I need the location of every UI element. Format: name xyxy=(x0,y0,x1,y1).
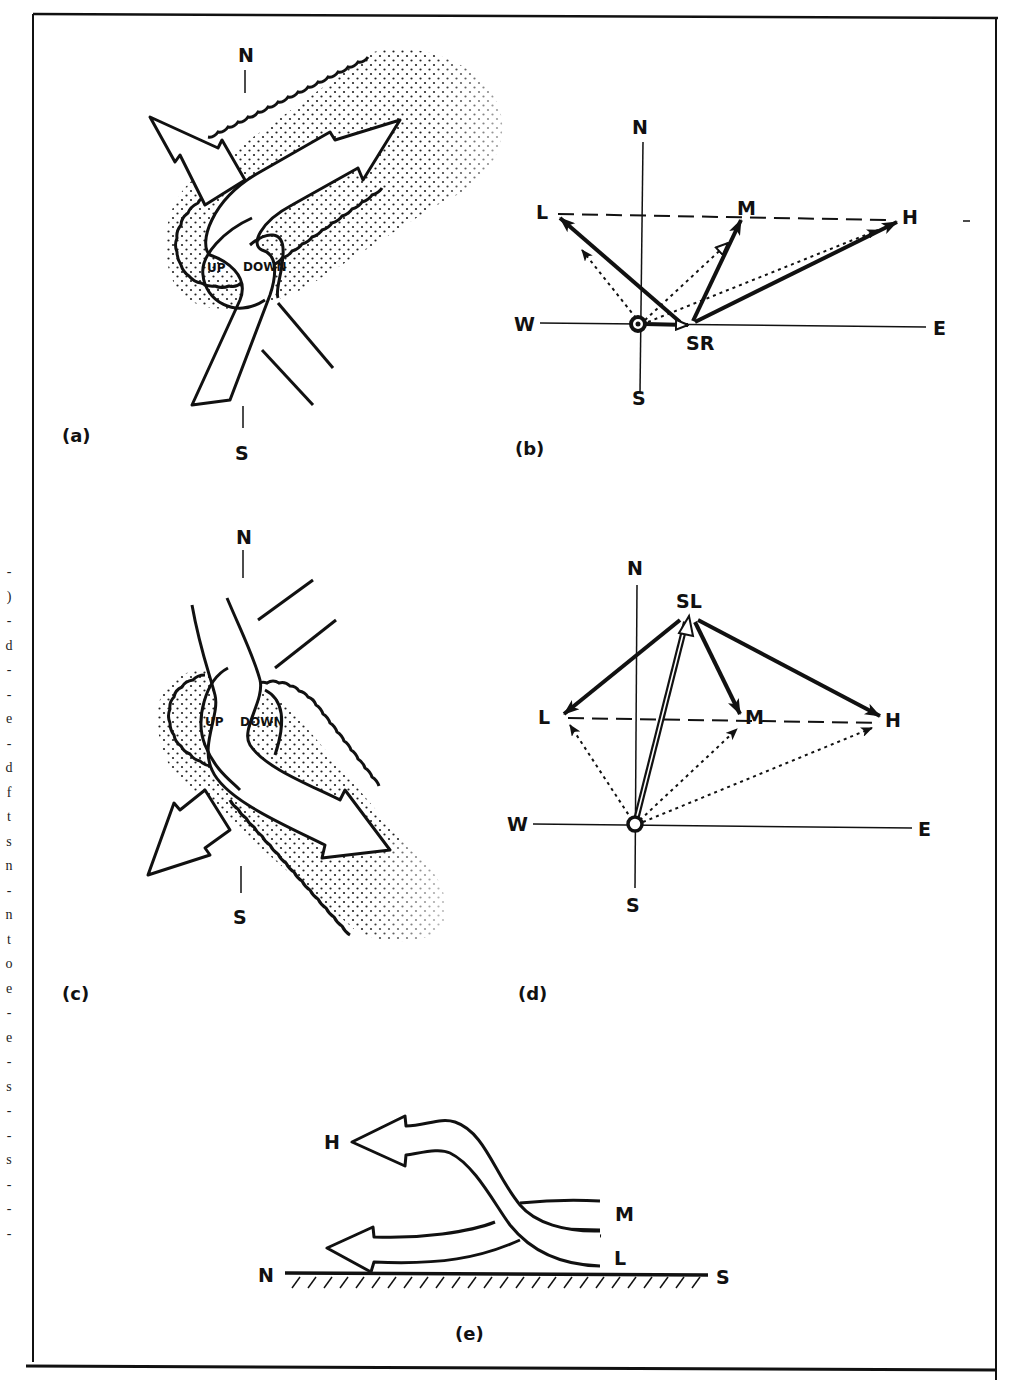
low-level-flow-arrow xyxy=(327,1222,520,1272)
panel-b-hodograph-right-mover: N S W E L M H SR (b) xyxy=(514,116,970,459)
south-label: S xyxy=(716,1266,730,1288)
storm-motion-vector xyxy=(645,324,688,325)
south-label: S xyxy=(235,442,249,464)
hodograph-dashed-line xyxy=(558,214,890,220)
updraft-label: UP xyxy=(207,261,226,275)
east-label: E xyxy=(933,317,946,339)
panel-label-d: (d) xyxy=(518,983,547,1004)
ground-hatching xyxy=(292,1277,700,1288)
north-label: N xyxy=(258,1264,274,1286)
west-label: W xyxy=(507,813,528,835)
ground-line xyxy=(285,1273,708,1275)
panel-d-hodograph-left-mover: N S W E L M H SL (d) xyxy=(507,557,931,1004)
south-label: S xyxy=(632,387,646,409)
point-H: H xyxy=(885,709,901,731)
panel-label-e: (e) xyxy=(455,1323,484,1344)
panel-c-storm-plan-view: UP DOWN N S (c) xyxy=(62,526,450,1004)
level-M-label: M xyxy=(615,1203,634,1225)
panel-label-a: (a) xyxy=(62,425,91,446)
point-H: H xyxy=(902,206,918,228)
hodograph-dashed-line xyxy=(568,718,880,723)
south-label: S xyxy=(233,906,247,928)
north-label: N xyxy=(236,526,252,548)
panel-label-c: (c) xyxy=(62,983,89,1004)
panel-label-b: (b) xyxy=(515,438,544,459)
updraft-label: UP xyxy=(205,715,224,729)
figure-canvas: UP DOWN N S (a) N S W E L M H SR (b) xyxy=(0,0,1017,1382)
axis-ns xyxy=(640,142,643,392)
point-SR: SR xyxy=(686,332,715,354)
south-label: S xyxy=(626,894,640,916)
point-L: L xyxy=(536,201,548,223)
downdraft-label: DOWN xyxy=(240,715,283,729)
point-M: M xyxy=(745,706,764,728)
point-M: M xyxy=(737,197,756,219)
level-L-label: L xyxy=(614,1247,626,1269)
panel-a-storm-plan-view: UP DOWN N S (a) xyxy=(62,40,520,464)
point-L: L xyxy=(538,706,550,728)
north-label: N xyxy=(627,557,643,579)
origin-marker xyxy=(628,817,642,831)
downdraft-label: DOWN xyxy=(243,260,286,274)
west-label: W xyxy=(514,313,535,335)
axis-ns xyxy=(635,585,637,888)
east-label: E xyxy=(918,818,931,840)
point-SL: SL xyxy=(676,590,702,612)
north-label: N xyxy=(632,116,648,138)
axis-we xyxy=(533,824,912,828)
level-H-label: H xyxy=(324,1131,340,1153)
axis-we xyxy=(540,323,926,327)
panel-e-vertical-cross-section: H M L N S (e) xyxy=(258,1116,730,1344)
north-label: N xyxy=(238,44,254,66)
